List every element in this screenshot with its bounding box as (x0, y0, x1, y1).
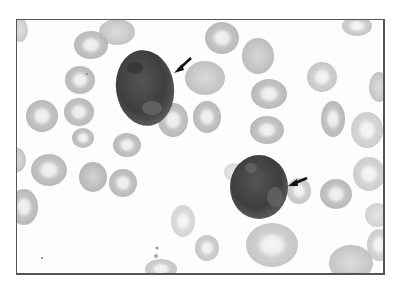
rbc (242, 38, 274, 74)
rbc (353, 157, 383, 191)
rbc (246, 223, 298, 267)
rbc (205, 22, 239, 54)
rbc (195, 235, 219, 261)
micrograph-frame (16, 19, 385, 275)
rbc (193, 101, 221, 133)
rbc (31, 154, 67, 186)
rbc (369, 72, 383, 102)
rbc (342, 20, 372, 36)
rbc (185, 61, 225, 95)
rbc (365, 203, 383, 227)
rbc (351, 112, 383, 148)
rbc (320, 179, 352, 209)
rbc (145, 259, 177, 273)
rbc (171, 205, 195, 237)
rbc (251, 79, 287, 109)
rbc (307, 62, 337, 92)
rbc (26, 100, 58, 132)
rbc (250, 116, 284, 144)
rbc (79, 162, 107, 192)
rbc (64, 98, 94, 126)
rbc (113, 133, 141, 157)
rbc (109, 169, 137, 197)
rbc (17, 189, 38, 225)
rbc (17, 20, 28, 42)
dark-cell-lower (230, 155, 288, 219)
rbc (65, 66, 95, 94)
red-blood-cells (17, 20, 383, 273)
rbc (17, 148, 26, 172)
rbc (321, 101, 345, 137)
micrograph-image (17, 20, 383, 273)
rbc (72, 128, 94, 148)
rbc (329, 245, 373, 273)
rbc (99, 20, 135, 45)
